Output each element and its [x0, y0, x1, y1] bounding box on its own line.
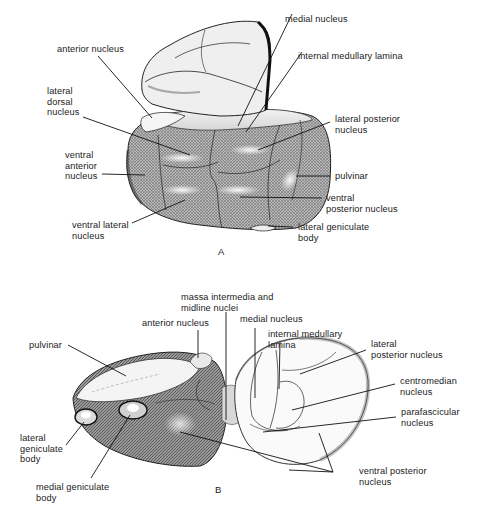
thalamus-figure: anterior nucleus medial nucleus internal…: [0, 0, 489, 512]
label-b-anterior-nucleus: anterior nucleus: [142, 318, 209, 329]
label-a-lateral-dorsal-nucleus: lateral dorsal nucleus: [47, 86, 79, 118]
panel-b-letter: B: [215, 484, 221, 495]
thalamus-illustration: [0, 0, 489, 512]
label-a-anterior-nucleus: anterior nucleus: [57, 44, 124, 55]
label-b-lateral-posterior-nucleus: lateral posterior nucleus: [371, 339, 443, 360]
label-b-medial-nucleus: medial nucleus: [240, 314, 303, 325]
label-a-pulvinar: pulvinar: [335, 171, 368, 182]
label-a-ventral-posterior-nucleus: ventral posterior nucleus: [326, 193, 398, 214]
label-b-centromedian-nucleus: centromedian nucleus: [400, 376, 457, 397]
label-a-internal-medullary-lamina: internal medullary lamina: [298, 51, 403, 62]
label-b-massa-intermedia: massa intermedia and midline nuclei: [181, 292, 273, 313]
label-b-ventral-posterior-nucleus: ventral posterior nucleus: [359, 466, 427, 487]
panel-a-letter: A: [218, 246, 224, 257]
label-b-medial-geniculate-body: medial geniculate body: [36, 482, 109, 503]
label-a-ventral-lateral-nucleus: ventral lateral nucleus: [72, 220, 129, 241]
label-b-parafascicular-nucleus: parafascicular nucleus: [401, 407, 460, 428]
label-a-lateral-geniculate-body: lateral geniculate body: [298, 222, 369, 243]
label-a-lateral-posterior-nucleus: lateral posterior nucleus: [335, 114, 400, 135]
label-b-lateral-geniculate-body: lateral geniculate body: [20, 433, 63, 465]
label-b-internal-medullary-lamina: internal medullary lamina: [268, 329, 342, 350]
label-a-ventral-anterior-nucleus: ventral anterior nucleus: [65, 150, 97, 182]
label-a-medial-nucleus: medial nucleus: [285, 14, 348, 25]
label-b-pulvinar: pulvinar: [29, 340, 62, 351]
